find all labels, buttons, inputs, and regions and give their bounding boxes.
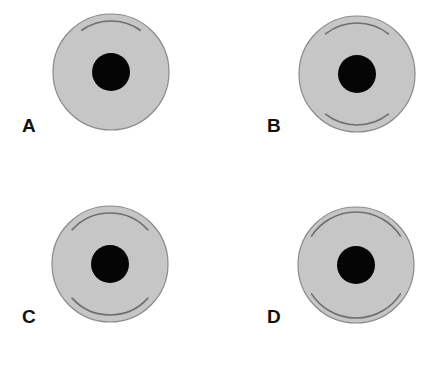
panel-label-d: D: [267, 307, 281, 326]
figure-canvas: [0, 0, 443, 377]
panel-d: [298, 207, 414, 323]
panel-b: [299, 16, 415, 132]
panel-label-a: A: [22, 116, 36, 135]
figure: A B C D: [0, 0, 443, 377]
panel-label-c: C: [22, 307, 36, 326]
panel-label-b: B: [267, 116, 281, 135]
panel-a: [53, 14, 169, 130]
pupil-b: [338, 55, 376, 93]
panel-c: [52, 206, 168, 322]
pupil-d: [337, 246, 375, 284]
pupil-a: [92, 53, 130, 91]
pupil-c: [91, 245, 129, 283]
